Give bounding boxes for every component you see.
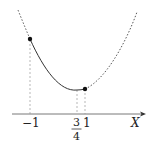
tick-label-one: 1	[83, 116, 91, 130]
tick-label-minus-one: −1	[22, 116, 40, 130]
point-left-endpoint	[28, 37, 32, 41]
curve-solid-segment	[30, 39, 85, 90]
curve-dashed-right	[85, 12, 137, 89]
point-right-endpoint	[83, 87, 87, 91]
tick-label-three-quarters-denominator: 4	[73, 130, 80, 143]
tick-label-three-quarters-numerator: 3	[73, 116, 80, 129]
x-axis-label: X	[130, 116, 140, 130]
curve-dashed-left	[18, 10, 30, 39]
function-graph-diagram: −1 3 4 1 X	[0, 0, 151, 145]
